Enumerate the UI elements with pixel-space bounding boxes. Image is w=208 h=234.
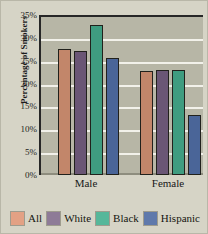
bar-female-black[interactable]	[172, 70, 185, 175]
plot-area	[39, 15, 203, 175]
legend-entry-all[interactable]: All	[10, 211, 42, 226]
y-tick-label: 30%	[3, 33, 37, 43]
bar-male-all[interactable]	[58, 49, 71, 175]
y-tick-label: 35%	[3, 10, 37, 20]
legend-entry-black[interactable]: Black	[95, 211, 139, 226]
legend-label-white: White	[64, 212, 91, 224]
legend-swatch-black	[95, 211, 110, 226]
bar-male-hispanic[interactable]	[106, 58, 119, 175]
y-axis-tick-labels: 0%5%10%15%20%25%30%35%	[3, 15, 37, 175]
legend-label-hispanic: Hispanic	[161, 212, 200, 224]
x-tick-label-male: Male	[75, 177, 98, 189]
chart-figure: Percentage of Smokers 0%5%10%15%20%25%30…	[0, 0, 208, 234]
y-tick-label: 25%	[3, 56, 37, 66]
y-tick-label: 5%	[3, 147, 37, 157]
chart-legend: AllWhiteBlackHispanic	[6, 205, 204, 231]
bar-group-female	[140, 17, 201, 175]
bar-female-hispanic[interactable]	[188, 115, 201, 175]
legend-swatch-all	[10, 211, 25, 226]
bar-group-male	[58, 17, 119, 175]
y-tick-label: 20%	[3, 79, 37, 89]
y-tick-label: 0%	[3, 170, 37, 180]
bar-male-white[interactable]	[74, 51, 87, 175]
bar-male-black[interactable]	[90, 25, 103, 175]
legend-label-black: Black	[113, 212, 139, 224]
x-tick-label-female: Female	[152, 177, 184, 189]
legend-swatch-white	[46, 211, 61, 226]
y-tick-label: 15%	[3, 101, 37, 111]
bar-female-white[interactable]	[156, 70, 169, 175]
y-tick-label: 10%	[3, 124, 37, 134]
legend-entry-hispanic[interactable]: Hispanic	[143, 211, 200, 226]
x-axis-tick-labels: MaleFemale	[39, 177, 203, 195]
legend-label-all: All	[28, 212, 42, 224]
legend-swatch-hispanic	[143, 211, 158, 226]
bar-female-all[interactable]	[140, 71, 153, 175]
legend-entry-white[interactable]: White	[46, 211, 91, 226]
